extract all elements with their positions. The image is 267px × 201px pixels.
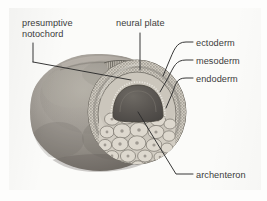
label-archenteron: archenteron [196, 170, 246, 181]
label-mesoderm: mesoderm [196, 56, 240, 67]
label-ectoderm: ectoderm [196, 38, 235, 49]
label-neural-plate: neural plate [116, 18, 165, 29]
label-endoderm: endoderm [196, 74, 238, 85]
figure-container: presumptive notochord neural plate ectod… [0, 0, 267, 201]
label-presumptive-notochord: presumptive notochord [22, 18, 73, 40]
